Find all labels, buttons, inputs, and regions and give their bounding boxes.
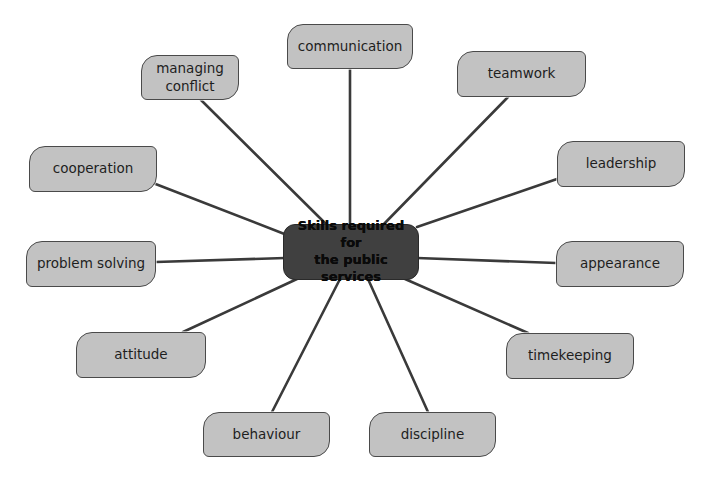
node-label: discipline xyxy=(401,426,464,444)
node-label: teamwork xyxy=(488,65,556,83)
node-attitude: attitude xyxy=(76,332,206,378)
node-behaviour: behaviour xyxy=(203,412,330,457)
central-topic: Skills required for the public services xyxy=(283,224,419,280)
node-discipline: discipline xyxy=(369,412,496,457)
node-leadership: leadership xyxy=(557,141,685,187)
node-label: cooperation xyxy=(53,160,134,178)
link-leadership xyxy=(417,179,557,227)
link-managing-conflict xyxy=(201,100,328,226)
link-appearance xyxy=(417,258,556,263)
node-label: communication xyxy=(298,38,402,56)
node-label-line2: conflict xyxy=(156,78,224,96)
link-timekeeping xyxy=(405,279,528,333)
link-problem-solving xyxy=(156,258,285,262)
node-label: timekeeping xyxy=(528,347,612,365)
node-timekeeping: timekeeping xyxy=(506,333,634,379)
node-appearance: appearance xyxy=(556,241,684,287)
link-cooperation xyxy=(153,183,287,235)
node-teamwork: teamwork xyxy=(457,51,586,97)
node-label-line1: managing xyxy=(156,60,224,78)
node-label: behaviour xyxy=(233,426,301,444)
link-teamwork xyxy=(382,97,508,226)
node-label: attitude xyxy=(114,346,167,364)
central-topic-line2: the public services xyxy=(290,252,412,286)
node-label: problem solving xyxy=(37,255,145,273)
node-label: appearance xyxy=(580,255,660,273)
node-problem-solving: problem solving xyxy=(26,241,156,287)
node-communication: communication xyxy=(287,24,413,69)
central-topic-line1: Skills required for xyxy=(290,218,412,252)
link-discipline xyxy=(368,279,428,412)
node-managing-conflict: managing conflict xyxy=(141,55,239,100)
node-label: leadership xyxy=(586,155,657,173)
node-cooperation: cooperation xyxy=(29,146,157,192)
link-behaviour xyxy=(272,279,340,412)
link-attitude xyxy=(183,279,297,332)
